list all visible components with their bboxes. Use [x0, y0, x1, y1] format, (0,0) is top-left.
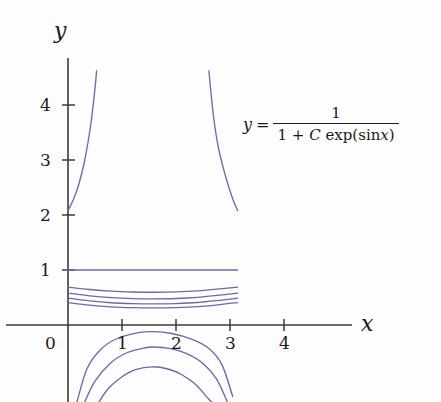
x-tick-label-3: 3	[225, 335, 236, 352]
equation-fraction: 1 1 + C exp(sinx)	[273, 104, 398, 144]
equation-equals-sign: =	[255, 115, 273, 134]
solution-curve	[68, 71, 97, 211]
denominator-close-paren: )	[389, 126, 395, 144]
solution-curve-family	[68, 71, 238, 402]
denominator-exp-sin: exp(sin	[325, 126, 380, 144]
solution-curve	[209, 71, 238, 211]
solution-curve	[68, 287, 238, 292]
x-axis-label: x	[361, 313, 373, 335]
denominator-variable-x: x	[380, 126, 388, 144]
equation-denominator: 1 + C exp(sinx)	[273, 124, 398, 144]
equation-annotation: y = 1 1 + C exp(sinx)	[243, 104, 399, 144]
y-axis-label: y	[54, 20, 66, 42]
solution-curve	[84, 347, 227, 402]
equation-numerator: 1	[325, 104, 347, 123]
x-tick-label-4: 4	[279, 335, 290, 352]
denominator-constant-c: C	[309, 126, 320, 144]
y-tick-label-3: 3	[40, 152, 51, 169]
x-tick-label-2: 2	[171, 335, 182, 352]
equation-lhs: y	[243, 115, 255, 134]
denominator-one-plus: 1 +	[277, 126, 304, 144]
solution-curve	[98, 367, 212, 402]
x-tick-label-0: 0	[45, 335, 56, 352]
y-tick-label-4: 4	[40, 97, 51, 114]
y-tick-label-1: 1	[40, 262, 51, 279]
x-tick-label-1: 1	[117, 335, 128, 352]
solution-curve	[68, 293, 238, 299]
plot-canvas	[0, 0, 441, 402]
y-tick-label-2: 2	[40, 207, 51, 224]
plot-figure: y x 1 2 3 4 0 1 2 3 4 y = 1 1 + C exp(si…	[0, 0, 441, 402]
